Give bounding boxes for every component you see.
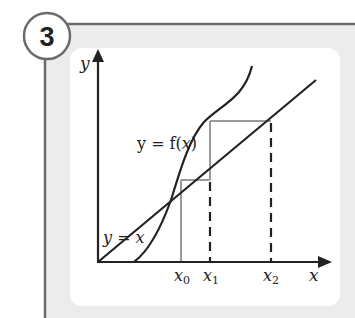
iteration-diagram: 3 y x y = f(x) y = x x0 x1 x2 (0, 0, 355, 318)
x-axis-label: x (309, 265, 319, 285)
figure-number: 3 (39, 22, 54, 52)
y-axis-label: y (79, 53, 90, 73)
line-label: y = x (102, 228, 145, 247)
function-label: y = f(x) (136, 134, 197, 153)
